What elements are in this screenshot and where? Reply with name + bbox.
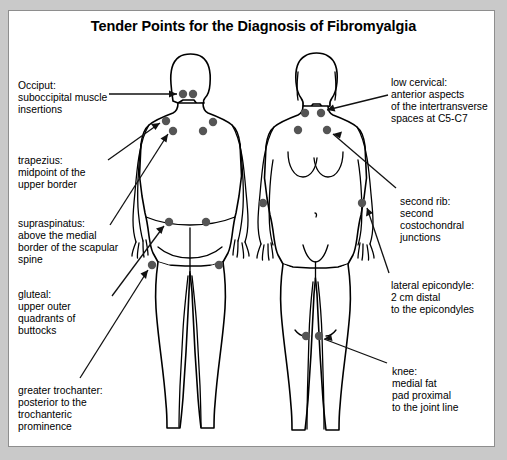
label-trapezius: trapezius: midpoint of the upper border (18, 155, 133, 191)
posterior-right-leg (190, 262, 225, 428)
dot-knee-right (315, 332, 323, 340)
anterior-left-hand (257, 243, 273, 260)
dot-gluteal-right (202, 218, 210, 226)
dot-second-rib-left (294, 126, 302, 134)
dot-second-rib-right (323, 126, 331, 134)
leader-arrow-greater-trochanter (141, 270, 149, 279)
label-gluteal: gluteal: upper outer quadrants of buttoc… (18, 289, 133, 337)
anterior-head (296, 53, 337, 108)
label-occiput: Occiput: suboccipital muscle insertions (18, 80, 133, 116)
label-low-cervical: low cervical: anterior aspects of the in… (391, 77, 503, 125)
dot-occiput-left (179, 90, 187, 98)
label-second-rib: second rib: second costochondral junctio… (400, 196, 500, 244)
dot-knee-left (302, 332, 310, 340)
anterior-right-hand (358, 243, 374, 260)
leader-low-cervical (327, 95, 388, 110)
fibromyalgia-tender-points-diagram: Tender Points for the Diagnosis of Fibro… (0, 0, 507, 460)
leader-lateral-epicondyle (367, 208, 389, 273)
dot-occiput-right (189, 90, 197, 98)
label-knee: knee: medial fat pad proximal to the joi… (392, 366, 497, 414)
label-supraspinatus: supraspinatus: above the medial border o… (18, 218, 143, 266)
anterior-torso (265, 106, 367, 268)
posterior-body-figure (132, 54, 249, 428)
label-greater-trochanter: greater trochanter: posterior to the tro… (18, 385, 148, 433)
dot-supraspinatus-right (199, 127, 207, 135)
dot-low-cervical-left (301, 109, 309, 117)
posterior-left-leg (156, 262, 190, 428)
dot-lateral-epicondyle-right (358, 199, 366, 207)
posterior-right-hand (233, 240, 249, 258)
dot-supraspinatus-left (169, 127, 177, 135)
dot-greater-trochanter-right (215, 261, 223, 269)
dot-greater-trochanter-left (148, 261, 156, 269)
dot-trapezius-right (209, 118, 217, 126)
dot-low-cervical-right (317, 109, 325, 117)
anterior-body-figure (257, 53, 374, 430)
dot-trapezius-left (162, 117, 170, 125)
dot-gluteal-left (165, 218, 173, 226)
dot-lateral-epicondyle-left (259, 199, 267, 207)
anterior-left-leg (281, 264, 316, 430)
label-lateral-epicondyle: lateral epicondyle: 2 cm distal to the e… (391, 280, 503, 316)
